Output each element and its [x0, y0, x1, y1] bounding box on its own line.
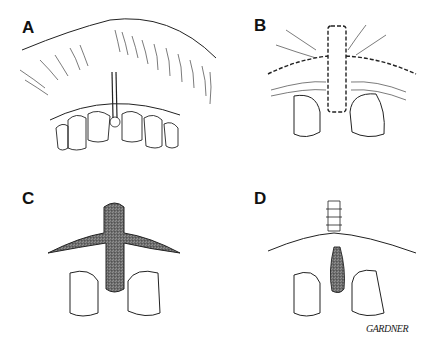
panel-c: C [0, 171, 216, 342]
frenum-illustration-d [216, 171, 432, 343]
panel-d: D GARDNER [216, 171, 432, 342]
frenum-illustration-c [0, 171, 216, 343]
artist-signature: GARDNER [366, 323, 408, 334]
panel-a: A [0, 0, 216, 171]
frenum-illustration-a [0, 0, 216, 171]
frenum-illustration-b [216, 0, 432, 171]
panel-b: B [216, 0, 432, 171]
